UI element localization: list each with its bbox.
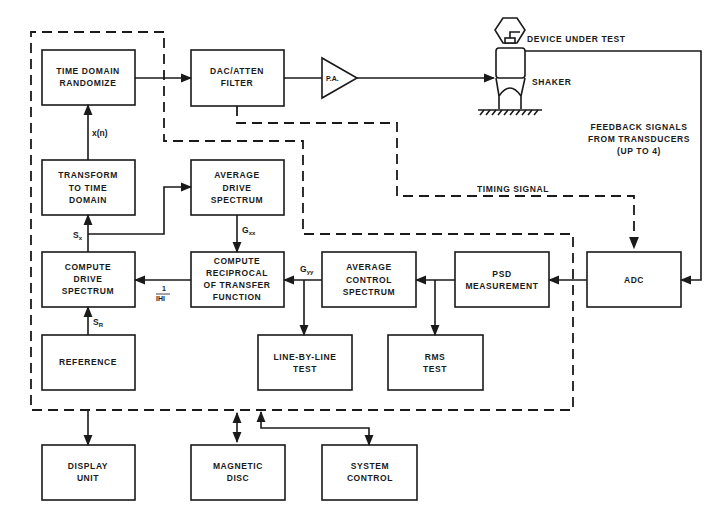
svg-text:PSD: PSD (492, 269, 511, 279)
block-psd-measurement: PSD MEASUREMENT (455, 252, 549, 307)
block-system-control: SYSTEM CONTROL (322, 445, 417, 500)
svg-text:DISPLAY: DISPLAY (68, 461, 108, 471)
signal-gxx: Gxx (242, 225, 256, 236)
block-average-control-spectrum: AVERAGE CONTROL SPECTRUM (322, 252, 416, 307)
svg-text:UNIT: UNIT (77, 473, 99, 483)
svg-text:DRIVE: DRIVE (74, 274, 103, 284)
block-adc: ADC (587, 252, 681, 307)
svg-text:REFERENCE: REFERENCE (59, 357, 117, 367)
svg-text:TO TIME: TO TIME (69, 183, 108, 193)
svg-text:P.A.: P.A. (326, 75, 339, 82)
svg-text:DOMAIN: DOMAIN (69, 195, 107, 205)
block-reference: REFERENCE (42, 335, 135, 390)
signal-gyy: Gyy (300, 264, 314, 275)
svg-text:DRIVE: DRIVE (223, 183, 252, 193)
shaker-label: SHAKER (532, 77, 572, 87)
feedback-signals-note: FEEDBACK SIGNALS FROM TRANSDUCERS (UP TO… (588, 122, 690, 156)
svg-text:AVERAGE: AVERAGE (346, 262, 392, 272)
svg-text:FUNCTION: FUNCTION (213, 292, 262, 302)
svg-text:COMPUTE: COMPUTE (65, 262, 112, 272)
signal-inverse-h: 1 IHI (156, 285, 170, 302)
svg-text:IHI: IHI (156, 295, 165, 302)
svg-text:OF TRANSFER: OF TRANSFER (203, 280, 270, 290)
svg-text:CONTROL: CONTROL (346, 275, 392, 285)
svg-text:MAGNETIC: MAGNETIC (213, 461, 263, 471)
block-compute-drive-spectrum: COMPUTE DRIVE SPECTRUM (42, 252, 135, 307)
timing-signal-path (237, 106, 634, 248)
timing-signal-label: TIMING SIGNAL (477, 184, 549, 194)
svg-text:SYSTEM: SYSTEM (351, 461, 390, 471)
signal-sr: SR (93, 317, 104, 328)
svg-text:SPECTRUM: SPECTRUM (343, 287, 396, 297)
svg-text:AVERAGE: AVERAGE (214, 170, 260, 180)
svg-text:RECIPROCAL: RECIPROCAL (206, 268, 268, 278)
signal-sx: Sx (73, 230, 83, 241)
svg-text:DISC: DISC (227, 473, 250, 483)
svg-text:1: 1 (162, 285, 166, 292)
svg-text:CONTROL: CONTROL (347, 473, 393, 483)
svg-text:FROM TRANSDUCERS: FROM TRANSDUCERS (588, 134, 690, 144)
vibration-control-block-diagram: TIME DOMAIN RANDOMIZE DAC/ATTEN FILTER T… (0, 0, 723, 520)
svg-text:SPECTRUM: SPECTRUM (62, 286, 115, 296)
block-transform-to-time-domain: TRANSFORM TO TIME DOMAIN (42, 160, 135, 215)
svg-text:MEASUREMENT: MEASUREMENT (465, 281, 538, 291)
block-compute-reciprocal-transfer-function: COMPUTE RECIPROCAL OF TRANSFER FUNCTION (191, 252, 284, 307)
shaker-with-device (478, 18, 542, 115)
power-amplifier: P.A. (322, 58, 357, 98)
block-line-by-line-test: LINE-BY-LINE TEST (258, 335, 352, 390)
svg-text:LINE-BY-LINE: LINE-BY-LINE (274, 352, 337, 362)
svg-text:TIME DOMAIN: TIME DOMAIN (56, 66, 120, 76)
svg-text:TRANSFORM: TRANSFORM (58, 170, 118, 180)
block-rms-test: RMS TEST (388, 335, 483, 390)
device-under-test-label: DEVICE UNDER TEST (527, 34, 626, 44)
svg-text:FILTER: FILTER (221, 78, 254, 88)
block-display-unit: DISPLAY UNIT (42, 445, 135, 500)
svg-text:(UP TO 4): (UP TO 4) (617, 146, 661, 156)
svg-text:ADC: ADC (624, 275, 644, 285)
svg-text:SPECTRUM: SPECTRUM (211, 195, 264, 205)
svg-text:RANDOMIZE: RANDOMIZE (60, 78, 117, 88)
svg-text:RMS: RMS (425, 352, 446, 362)
block-dac-atten-filter: DAC/ATTEN FILTER (191, 50, 284, 106)
block-magnetic-disc: MAGNETIC DISC (191, 445, 285, 500)
svg-text:TEST: TEST (293, 364, 317, 374)
signal-x-n: x(n) (92, 128, 108, 138)
svg-text:TEST: TEST (423, 364, 447, 374)
svg-text:FEEDBACK SIGNALS: FEEDBACK SIGNALS (591, 122, 688, 132)
svg-text:DAC/ATTEN: DAC/ATTEN (210, 66, 264, 76)
svg-text:COMPUTE: COMPUTE (214, 256, 261, 266)
block-time-domain-randomize: TIME DOMAIN RANDOMIZE (42, 50, 135, 105)
block-average-drive-spectrum: AVERAGE DRIVE SPECTRUM (191, 160, 284, 215)
